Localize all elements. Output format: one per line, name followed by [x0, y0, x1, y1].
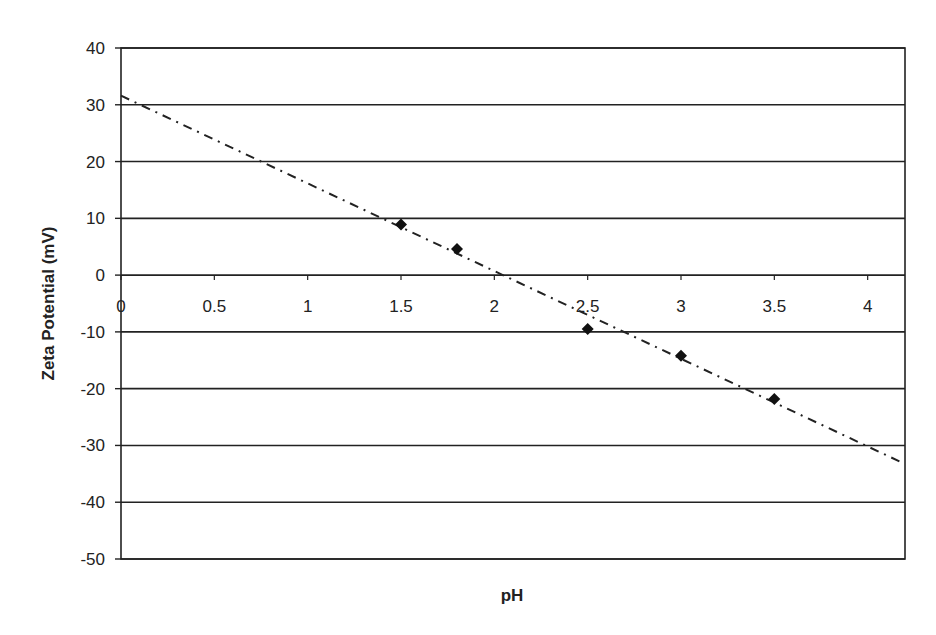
x-tick-label: 3.5: [763, 297, 787, 316]
y-tick-label: -30: [80, 436, 105, 455]
x-tick-label: 4: [863, 297, 872, 316]
linear-trendline: [121, 96, 899, 462]
y-tick-label: -50: [80, 550, 105, 569]
y-tick-label: 0: [96, 266, 105, 285]
y-axis-ticks: 403020100-10-20-30-40-50: [80, 39, 121, 569]
y-tick-label: 10: [86, 209, 105, 228]
data-point-diamond: [395, 219, 407, 231]
plot-area-frame: [121, 48, 905, 559]
y-tick-label: -40: [80, 493, 105, 512]
y-tick-label: -20: [80, 380, 105, 399]
y-tick-label: 40: [86, 39, 105, 58]
y-tick-label: 30: [86, 96, 105, 115]
x-tick-label: 0.5: [203, 297, 227, 316]
x-tick-label: 1: [303, 297, 312, 316]
x-tick-label: 2: [490, 297, 499, 316]
y-tick-label: -10: [80, 323, 105, 342]
x-axis-title: pH: [501, 586, 524, 605]
x-tick-label: 1.5: [389, 297, 413, 316]
y-axis-title: Zeta Potential (mV): [39, 227, 58, 381]
x-tick-label: 2.5: [576, 297, 600, 316]
zeta-potential-chart: 403020100-10-20-30-40-50 00.511.522.533.…: [0, 0, 936, 635]
x-tick-label: 3: [676, 297, 685, 316]
y-tick-label: 20: [86, 153, 105, 172]
data-point-diamond: [451, 243, 463, 255]
data-point-diamond: [582, 323, 594, 335]
x-axis-ticks: 00.511.522.533.54: [116, 275, 872, 316]
data-point-diamond: [768, 393, 780, 405]
horizontal-gridlines: [121, 48, 905, 559]
x-tick-label: 0: [116, 297, 125, 316]
